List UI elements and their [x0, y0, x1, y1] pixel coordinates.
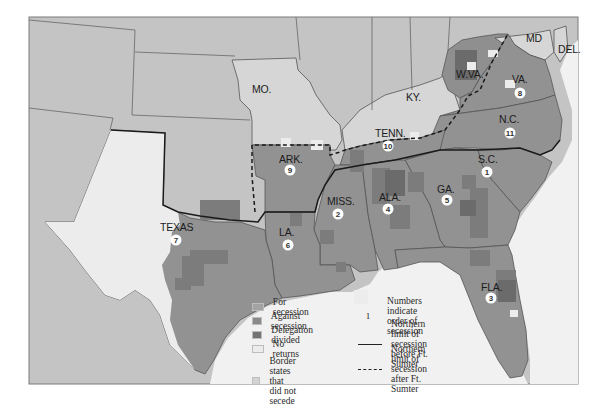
dashed-line-icon [358, 369, 382, 370]
label-mo: MO. [252, 83, 271, 95]
label-ala: ALA. [379, 191, 401, 203]
label-md: MD [526, 32, 543, 44]
swatch-against-secession [252, 317, 262, 325]
order-sc: 1 [485, 168, 490, 177]
order-nc: 11 [506, 129, 515, 138]
swatch-no-returns [252, 345, 264, 353]
label-va: VA. [512, 73, 528, 85]
label-texas: TEXAS [160, 221, 194, 233]
label-miss: MISS. [327, 195, 355, 207]
order-ga: 5 [445, 196, 450, 205]
order-la: 6 [286, 241, 291, 250]
legend-label: Northern limit of secession after Ft. Su… [391, 344, 433, 394]
label-ky: KY. [406, 91, 421, 103]
order-ala: 4 [386, 205, 391, 214]
label-ga: GA. [437, 183, 455, 195]
legend-border-states: Border states that did not secede [252, 356, 302, 406]
label-del: DEL. [558, 43, 581, 55]
label-tenn: TENN. [375, 127, 406, 139]
swatch-delegation-divided [252, 331, 262, 339]
legend-label: Border states that did not secede [269, 356, 302, 406]
legend-limit-after: Northern limit of secession after Ft. Su… [358, 344, 433, 394]
label-nc: N.C. [499, 113, 519, 125]
label-fla: FLA. [481, 281, 502, 293]
order-va: 8 [518, 89, 523, 98]
swatch-for-secession [252, 303, 264, 311]
order-tenn: 10 [384, 142, 393, 151]
swatch-border-states [252, 377, 260, 385]
order-fla: 3 [489, 294, 494, 303]
label-la: LA. [279, 226, 294, 238]
label-sc: S.C. [478, 153, 498, 165]
label-ark: ARK. [279, 153, 303, 165]
label-wva: W.VA. [456, 68, 483, 80]
order-ark: 9 [288, 166, 293, 175]
order-miss: 2 [336, 210, 341, 219]
order-texas: 7 [174, 236, 179, 245]
